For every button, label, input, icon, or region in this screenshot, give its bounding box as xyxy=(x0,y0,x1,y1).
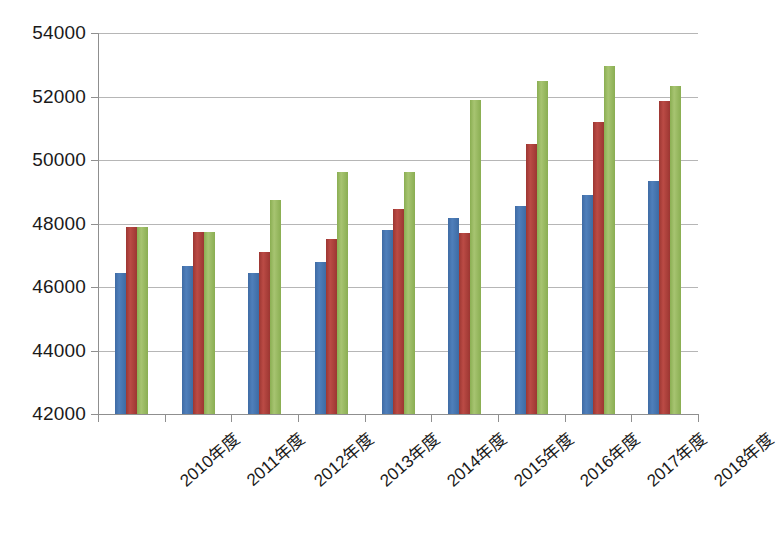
y-tick-mark xyxy=(91,224,98,225)
bar xyxy=(182,266,193,414)
bar xyxy=(115,273,126,414)
bar xyxy=(604,66,615,414)
y-tick-label: 52000 xyxy=(32,86,86,108)
bar xyxy=(593,122,604,414)
bar xyxy=(515,206,526,414)
bar-group xyxy=(448,33,481,414)
bar xyxy=(659,101,670,414)
bar xyxy=(526,144,537,414)
bar xyxy=(648,181,659,414)
x-tick-label: 2015年度 xyxy=(507,425,578,491)
bar xyxy=(126,227,137,414)
bar xyxy=(193,232,204,414)
y-axis-labels: 42000440004600048000500005200054000 xyxy=(0,33,86,414)
bar xyxy=(537,81,548,414)
y-tick-label: 50000 xyxy=(32,149,86,171)
bar xyxy=(259,252,270,414)
y-tick-mark xyxy=(91,97,98,98)
x-tick-label: 2014年度 xyxy=(440,425,511,491)
bar-group xyxy=(382,33,415,414)
caption-strip xyxy=(0,519,715,533)
y-tick-mark xyxy=(91,33,98,34)
y-tick-label: 46000 xyxy=(32,276,86,298)
y-tick-label: 54000 xyxy=(32,22,86,44)
bar xyxy=(582,195,593,414)
x-tick-mark xyxy=(298,415,299,422)
bar xyxy=(248,273,259,414)
y-tick-label: 44000 xyxy=(32,340,86,362)
bar xyxy=(204,232,215,414)
x-tick-label: 2017年度 xyxy=(640,425,711,491)
bar xyxy=(137,227,148,414)
bar-group xyxy=(115,33,148,414)
x-tick-mark xyxy=(698,415,699,422)
bar-group xyxy=(182,33,215,414)
bar xyxy=(470,100,481,414)
bar xyxy=(270,200,281,414)
x-tick-mark xyxy=(365,415,366,422)
x-tick-label: 2016年度 xyxy=(573,425,644,491)
y-tick-mark xyxy=(91,351,98,352)
bar xyxy=(326,239,337,414)
x-tick-mark xyxy=(98,415,99,422)
bar xyxy=(670,86,681,414)
bar-group xyxy=(515,33,548,414)
x-tick-label: 2018年度 xyxy=(707,425,777,491)
bar-group xyxy=(248,33,281,414)
bar xyxy=(393,209,404,414)
x-axis-ticks xyxy=(98,415,698,423)
plot-area xyxy=(98,33,698,414)
bar-group xyxy=(648,33,681,414)
x-tick-mark xyxy=(431,415,432,422)
y-tick-mark xyxy=(91,414,98,415)
x-tick-mark xyxy=(165,415,166,422)
y-tick-mark xyxy=(91,287,98,288)
x-tick-mark xyxy=(231,415,232,422)
x-tick-mark xyxy=(631,415,632,422)
x-tick-label: 2010年度 xyxy=(173,425,244,491)
x-tick-mark xyxy=(498,415,499,422)
bar xyxy=(337,172,348,414)
bar xyxy=(459,233,470,414)
bar xyxy=(315,262,326,414)
x-tick-label: 2011年度 xyxy=(240,425,310,490)
bar xyxy=(382,230,393,414)
x-tick-label: 2013年度 xyxy=(373,425,444,491)
bar xyxy=(404,172,415,414)
bar-group xyxy=(582,33,615,414)
bar xyxy=(448,218,459,414)
x-tick-mark xyxy=(565,415,566,422)
y-tick-mark xyxy=(91,160,98,161)
x-tick-label: 2012年度 xyxy=(307,425,378,491)
y-tick-label: 42000 xyxy=(32,403,86,425)
y-tick-label: 48000 xyxy=(32,213,86,235)
bar-group xyxy=(315,33,348,414)
x-axis-labels: 2010年度2011年度2012年度2013年度2014年度2015年度2016… xyxy=(98,424,698,504)
